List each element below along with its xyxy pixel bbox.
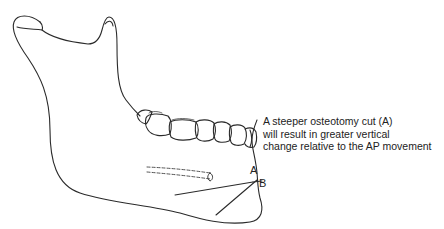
mandible-outline: [13, 16, 262, 223]
teeth: [137, 110, 257, 147]
nerve-canal-lower: [147, 172, 210, 179]
caption: A steeper osteotomy cut (A) will result …: [263, 115, 432, 153]
caption-line-1: A steeper osteotomy cut (A): [263, 115, 432, 128]
caption-line-3: change relative to the AP movement: [263, 140, 432, 153]
nerve-canal-upper: [147, 167, 210, 173]
mandible-osteotomy-diagram: A B A steeper osteotomy cut (A) will res…: [0, 0, 444, 229]
condyle-notch: [40, 17, 140, 116]
label-point-a: A: [250, 164, 257, 176]
label-point-b: B: [259, 177, 266, 189]
caption-line-2: will result in greater vertical: [263, 128, 432, 141]
condyle-head-line: [17, 27, 42, 30]
mental-foramen: [208, 173, 213, 181]
coronoid-inner-line: [105, 21, 113, 26]
